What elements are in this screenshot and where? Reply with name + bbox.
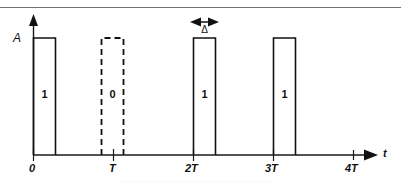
time-axis-label: t xyxy=(383,148,387,159)
x-tick-label-3T: 3T xyxy=(265,163,278,174)
pulse-train-figure: A t 0 T 2T 3T 4T 1 0 1 1 Δ xyxy=(0,0,401,187)
bit-label-0: 1 xyxy=(38,89,51,100)
x-tick-label-T: T xyxy=(109,163,116,174)
amplitude-axis-label: A xyxy=(13,32,21,44)
x-tick-label-4T: 4T xyxy=(345,163,358,174)
x-tick-label-2T: 2T xyxy=(185,163,198,174)
bit-label-3: 1 xyxy=(278,89,291,100)
bit-label-2: 1 xyxy=(198,89,211,100)
bit-label-1: 0 xyxy=(106,89,119,100)
pulse-width-symbol-label: Δ xyxy=(198,25,211,35)
y-axis-arrowhead-icon xyxy=(29,14,38,26)
x-axis-arrowhead-icon xyxy=(364,150,378,161)
x-tick-label-0: 0 xyxy=(29,163,35,174)
